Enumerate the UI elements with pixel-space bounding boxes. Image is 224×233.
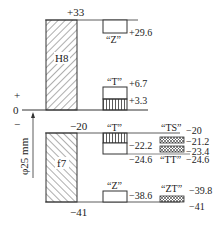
fit-box-z-upper bbox=[103, 20, 127, 33]
nominal-size-label: φ25 mm bbox=[18, 137, 30, 175]
fit-value: +6.7 bbox=[129, 78, 147, 89]
shaft-lower-value: −41 bbox=[70, 206, 87, 218]
fit-box-ts bbox=[160, 137, 184, 143]
fit-value: +29.6 bbox=[129, 27, 152, 38]
fit-value: −24.6 bbox=[186, 154, 209, 165]
fit-value: −38.6 bbox=[129, 190, 152, 201]
fit-label: “T” bbox=[107, 122, 122, 133]
zero-label: 0 bbox=[13, 104, 19, 116]
hole-zone-h8 bbox=[46, 20, 77, 110]
fit-box-tt bbox=[160, 146, 184, 152]
shaft-name: f7 bbox=[57, 157, 67, 169]
fit-label: “T” bbox=[107, 76, 122, 87]
hole-upper-value: +33 bbox=[67, 6, 85, 18]
fit-value: −24.6 bbox=[129, 154, 152, 165]
shaft-upper-value: −20 bbox=[70, 120, 88, 132]
fit-box-t-lower bbox=[103, 133, 127, 143]
fit-value: −22.2 bbox=[129, 140, 152, 151]
fit-label: “Z” bbox=[106, 34, 121, 45]
fit-value: −20 bbox=[186, 125, 202, 136]
fit-label: “ZT” bbox=[161, 183, 182, 194]
fit-value: −39.8 bbox=[189, 185, 212, 196]
plus-label: + bbox=[14, 89, 20, 101]
fit-box-zt bbox=[160, 196, 184, 202]
fit-label: “TS” bbox=[161, 122, 182, 133]
fit-value: −41 bbox=[189, 201, 205, 212]
tolerance-diagram: +33 H8 + 0 − φ25 mm −20 f7 −41 “Z” +29.6… bbox=[0, 0, 224, 233]
fit-box-t-upper bbox=[103, 87, 127, 99]
minus-label: − bbox=[14, 118, 20, 130]
hole-name: H8 bbox=[55, 52, 69, 64]
arrow-up-icon bbox=[31, 112, 35, 118]
fit-box-z-lower bbox=[103, 191, 127, 202]
fit-value: +3.3 bbox=[129, 95, 147, 106]
fit-label: “TT” bbox=[160, 154, 181, 165]
fit-label: “Z” bbox=[107, 180, 122, 191]
